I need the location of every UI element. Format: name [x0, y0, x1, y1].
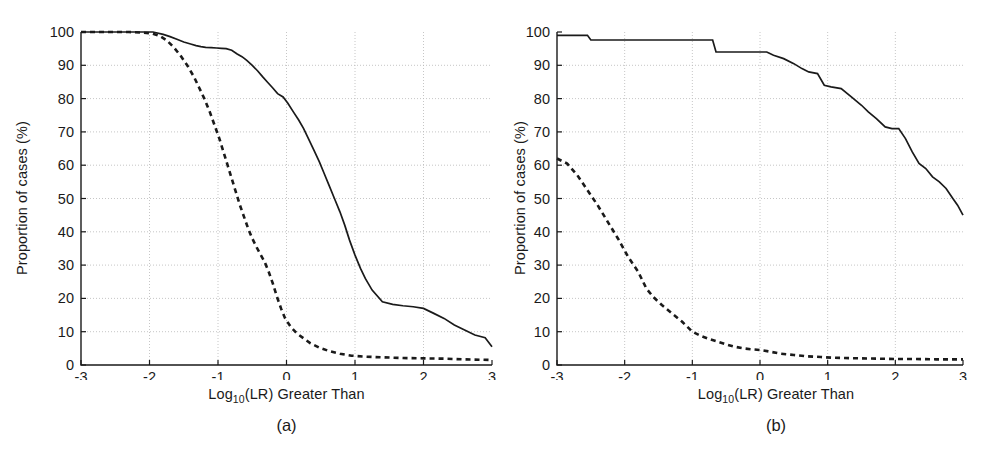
xlabel-base-b: Log: [698, 386, 723, 402]
x-tick-label: 2: [419, 369, 427, 380]
y-tick-label: 80: [534, 91, 550, 107]
y-tick-label: 50: [534, 191, 550, 207]
x-tick-label: -3: [551, 369, 564, 380]
x-tick-label: 0: [282, 369, 290, 380]
xlabel-sub-b: 10: [722, 393, 734, 405]
panel-a-y-axis-label: Proportion of cases (%): [14, 3, 36, 393]
y-tick-label: 50: [58, 191, 74, 207]
panel-b-x-axis-label: Log10(LR) Greater Than: [556, 386, 996, 405]
panel-b-plot: -3-2-101230102030405060708090100: [498, 0, 996, 380]
y-tick-label: 80: [58, 91, 74, 107]
x-tick-label: 1: [824, 369, 832, 380]
panel-b-caption: (b): [556, 416, 996, 435]
x-tick-label: 3: [488, 369, 496, 380]
x-tick-label: 1: [351, 369, 359, 380]
y-tick-label: 70: [534, 124, 550, 140]
y-tick-label: 100: [50, 24, 74, 40]
y-tick-label: 20: [58, 290, 74, 306]
y-tick-label: 60: [534, 157, 550, 173]
y-tick-label: 10: [58, 324, 74, 340]
x-tick-label: -1: [686, 369, 699, 380]
y-tick-label: 30: [58, 257, 74, 273]
y-tick-label: 0: [542, 357, 550, 373]
y-tick-label: 40: [58, 224, 74, 240]
xlabel-rest-a: (LR) Greater Than: [245, 386, 365, 402]
panel-b-y-axis-label: Proportion of cases (%): [512, 3, 534, 393]
y-tick-label: 70: [58, 124, 74, 140]
y-tick-label: 0: [66, 357, 74, 373]
panel-a-caption: (a): [80, 416, 493, 435]
axis-spines: [81, 32, 492, 365]
x-tick-label: 0: [756, 369, 764, 380]
x-tick-label: 2: [891, 369, 899, 380]
figure-two-panel-cdf: -3-2-101230102030405060708090100 Proport…: [0, 0, 997, 459]
panel-a: -3-2-101230102030405060708090100 Proport…: [0, 0, 498, 459]
y-tick-label: 40: [534, 224, 550, 240]
xlabel-rest-b: (LR) Greater Than: [734, 386, 854, 402]
xlabel-sub-a: 10: [233, 393, 245, 405]
panel-a-plot: -3-2-101230102030405060708090100: [0, 0, 498, 380]
x-tick-label: 3: [959, 369, 967, 380]
panel-a-x-axis-label: Log10(LR) Greater Than: [80, 386, 493, 405]
x-tick-label: -2: [618, 369, 631, 380]
y-tick-label: 60: [58, 157, 74, 173]
x-tick-label: -3: [75, 369, 88, 380]
y-tick-label: 10: [534, 324, 550, 340]
y-tick-label: 20: [534, 290, 550, 306]
panel-b: -3-2-101230102030405060708090100 Proport…: [498, 0, 996, 459]
y-tick-label: 30: [534, 257, 550, 273]
y-tick-label: 90: [534, 57, 550, 73]
xlabel-base-a: Log: [208, 386, 233, 402]
y-tick-label: 90: [58, 57, 74, 73]
x-tick-label: -1: [212, 369, 225, 380]
x-tick-label: -2: [143, 369, 156, 380]
